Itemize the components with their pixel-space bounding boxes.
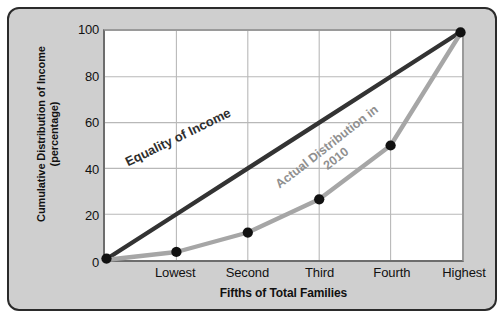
y-axis-title-line2: (percentage)	[48, 24, 61, 244]
x-tick-label: Third	[305, 265, 334, 280]
x-tick-label: Highest	[442, 265, 485, 280]
x-axis-tick-labels: LowestSecondThirdFourthHighest	[103, 265, 464, 287]
lorenz-curve-figure: Cumulative Distribution of Income (perce…	[0, 0, 504, 319]
y-axis-tick-labels: 020406080100	[61, 29, 99, 262]
y-axis-title: Cumulative Distribution of Income (perce…	[35, 24, 61, 244]
y-tick-label: 0	[65, 255, 99, 270]
series-line-0	[105, 31, 462, 260]
x-tick-label: Fourth	[373, 265, 410, 280]
y-tick-label: 80	[65, 68, 99, 83]
y-tick-label: 60	[65, 115, 99, 130]
y-tick-label: 40	[65, 161, 99, 176]
x-axis-title: Fifths of Total Families	[103, 286, 464, 300]
y-axis-title-line1: Cumulative Distribution of Income	[35, 46, 47, 222]
chart-panel: Cumulative Distribution of Income (perce…	[7, 7, 497, 311]
y-tick-label: 100	[65, 22, 99, 37]
plot-area	[103, 29, 464, 262]
y-tick-label: 20	[65, 208, 99, 223]
x-tick-label: Second	[226, 265, 270, 280]
chart-canvas	[105, 31, 462, 260]
x-tick-label: Lowest	[155, 265, 196, 280]
